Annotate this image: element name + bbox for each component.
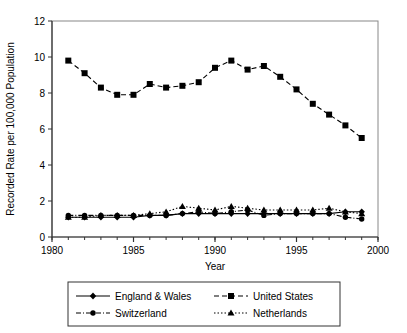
series-marker-2: [261, 213, 266, 218]
y-tick-label: 6: [39, 124, 45, 135]
series-marker-3: [326, 205, 333, 211]
series-marker-1: [245, 67, 251, 73]
series-marker-2: [343, 215, 348, 220]
series-marker-1: [131, 92, 137, 98]
series-marker-3: [195, 205, 202, 211]
y-axis-title: Recorded Rate per 100,000 Population: [5, 42, 16, 215]
series-marker-1: [212, 65, 218, 71]
y-tick-label: 2: [39, 196, 45, 207]
series-marker-3: [163, 208, 170, 214]
series-marker-2: [326, 211, 331, 216]
series-marker-1: [196, 79, 202, 85]
legend-label-2[interactable]: Switzerland: [115, 308, 167, 319]
x-tick-label: 1980: [41, 245, 64, 256]
series-marker-1: [326, 112, 332, 118]
series-marker-1: [261, 63, 267, 69]
line-chart: 02468101219801985199019952000YearRecorde…: [0, 0, 407, 333]
x-tick-label: 1995: [285, 245, 308, 256]
y-tick-label: 8: [39, 88, 45, 99]
series-marker-2: [229, 209, 234, 214]
y-tick-label: 10: [34, 52, 46, 63]
y-tick-label: 12: [34, 16, 46, 27]
legend-marker-1: [228, 293, 234, 299]
series-marker-1: [82, 70, 88, 76]
legend-label-0[interactable]: England & Wales: [115, 291, 191, 302]
x-tick-label: 1985: [122, 245, 145, 256]
series-marker-1: [277, 74, 283, 80]
series-marker-1: [359, 135, 365, 141]
legend-label-3[interactable]: Netherlands: [253, 308, 307, 319]
chart-figure: 02468101219801985199019952000YearRecorde…: [0, 0, 407, 333]
series-line-1: [68, 61, 361, 138]
series-marker-1: [294, 86, 300, 92]
series-marker-1: [228, 58, 234, 64]
series-marker-1: [114, 92, 120, 98]
series-marker-3: [228, 203, 235, 209]
legend-box: [68, 282, 340, 326]
series-marker-3: [179, 203, 186, 209]
x-axis-title: Year: [205, 261, 226, 272]
y-tick-label: 0: [39, 232, 45, 243]
legend-marker-2: [90, 310, 95, 315]
x-tick-label: 2000: [367, 245, 390, 256]
series-marker-1: [98, 85, 104, 91]
x-tick-label: 1990: [204, 245, 227, 256]
series-marker-1: [179, 83, 185, 89]
series-marker-1: [310, 101, 316, 107]
y-tick-label: 4: [39, 160, 45, 171]
series-marker-1: [147, 81, 153, 87]
series-marker-2: [180, 211, 185, 216]
series-marker-2: [359, 216, 364, 221]
series-marker-1: [163, 85, 169, 91]
plot-frame: [52, 21, 378, 237]
series-marker-1: [342, 122, 348, 128]
series-marker-1: [65, 58, 71, 64]
legend-label-1[interactable]: United States: [253, 291, 313, 302]
